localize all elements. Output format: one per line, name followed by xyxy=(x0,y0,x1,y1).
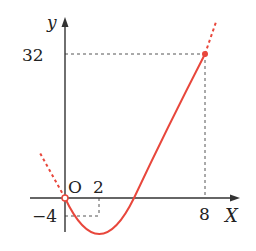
x-axis-label: X xyxy=(223,205,239,226)
parabola-solid xyxy=(65,54,205,234)
tick-label-8: 8 xyxy=(199,204,210,224)
origin-label: O xyxy=(68,177,82,197)
tick-label-2: 2 xyxy=(93,177,104,197)
guide-lines xyxy=(65,54,205,216)
point-8-32 xyxy=(202,51,208,57)
y-axis-label: y xyxy=(46,12,57,32)
tick-label-neg4: −4 xyxy=(32,206,57,226)
parabola-dashed-left xyxy=(40,153,65,198)
x-axis-arrow-icon xyxy=(230,195,240,202)
function-graph: y 32 O 2 8 X −4 xyxy=(0,0,256,251)
axes xyxy=(30,24,232,232)
parabola-dashed-right xyxy=(205,22,216,54)
tick-label-32: 32 xyxy=(22,45,44,65)
y-axis-arrow-icon xyxy=(62,17,69,27)
